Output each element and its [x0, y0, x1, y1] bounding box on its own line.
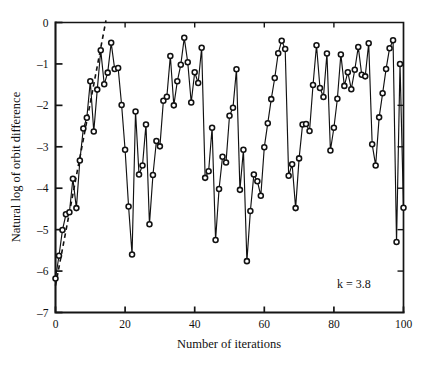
- data-point-marker: [147, 222, 152, 227]
- data-point-marker: [279, 38, 284, 43]
- x-tick-label: 40: [189, 318, 201, 330]
- x-tick-label: 100: [395, 318, 413, 330]
- x-tick-label: 0: [53, 318, 59, 330]
- data-point-marker: [84, 115, 89, 120]
- data-point-marker: [394, 240, 399, 245]
- data-point-marker: [352, 67, 357, 72]
- data-point-marker: [366, 41, 371, 46]
- data-point-marker: [304, 122, 309, 127]
- x-axis-title: Number of iterations: [177, 337, 281, 351]
- data-point-marker: [91, 129, 96, 134]
- data-point-marker: [331, 125, 336, 130]
- data-point-marker: [234, 67, 239, 72]
- data-point-marker: [206, 169, 211, 174]
- y-tick-label: –3: [36, 141, 49, 153]
- data-point-marker: [321, 95, 326, 100]
- data-point-marker: [363, 74, 368, 79]
- data-point-marker: [182, 35, 187, 40]
- data-point-marker: [77, 158, 82, 163]
- data-point-marker: [345, 70, 350, 75]
- y-tick-label: –6: [36, 265, 49, 277]
- data-point-marker: [311, 83, 316, 88]
- y-tick-label: –1: [36, 58, 49, 70]
- data-point-marker: [98, 48, 103, 53]
- data-point-marker: [199, 45, 204, 50]
- y-tick-label: 0: [43, 17, 49, 29]
- data-point-marker: [272, 76, 277, 81]
- data-point-marker: [102, 82, 107, 87]
- data-point-marker: [293, 206, 298, 211]
- data-point-marker: [349, 87, 354, 92]
- data-point-marker: [224, 160, 229, 165]
- data-point-marker: [171, 103, 176, 108]
- data-point-marker: [241, 147, 246, 152]
- k-value-annotation: k = 3.8: [337, 277, 371, 291]
- data-point-marker: [175, 79, 180, 84]
- data-point-marker: [342, 83, 347, 88]
- data-point-marker: [150, 172, 155, 177]
- chart-figure: 020406080100 0–1–2–3–4–5–6–7 Number of i…: [0, 0, 433, 377]
- data-point-marker: [314, 43, 319, 48]
- data-point-marker: [217, 187, 222, 192]
- data-point-marker: [255, 179, 260, 184]
- data-point-marker: [262, 145, 267, 150]
- data-point-marker: [60, 228, 65, 233]
- data-point-marker: [81, 126, 86, 131]
- data-point-marker: [286, 173, 291, 178]
- data-point-marker: [307, 129, 312, 134]
- data-point-marker: [109, 40, 114, 45]
- data-point-marker: [130, 252, 135, 257]
- data-point-marker: [185, 60, 190, 65]
- data-point-marker: [276, 51, 281, 56]
- data-point-marker: [119, 102, 124, 107]
- data-point-marker: [192, 70, 197, 75]
- data-point-marker: [203, 175, 208, 180]
- data-point-marker: [133, 109, 138, 114]
- data-point-marker: [380, 91, 385, 96]
- data-point-marker: [398, 61, 403, 66]
- data-point-marker: [178, 62, 183, 67]
- data-point-marker: [244, 259, 249, 264]
- data-point-marker: [384, 66, 389, 71]
- data-point-marker: [53, 276, 58, 281]
- data-point-marker: [105, 70, 110, 75]
- data-point-marker: [269, 97, 274, 102]
- data-point-marker: [283, 47, 288, 52]
- data-point-marker: [143, 122, 148, 127]
- data-point-marker: [210, 125, 215, 130]
- data-point-marker: [116, 66, 121, 71]
- data-point-marker: [189, 100, 194, 105]
- data-point-marker: [213, 238, 218, 243]
- data-point-marker: [126, 204, 131, 209]
- data-point-marker: [237, 187, 242, 192]
- data-point-marker: [297, 156, 302, 161]
- data-point-marker: [88, 79, 93, 84]
- data-point-marker: [154, 138, 159, 143]
- data-point-marker: [338, 52, 343, 57]
- data-point-marker: [196, 80, 201, 85]
- data-point-marker: [265, 121, 270, 126]
- data-point-marker: [74, 206, 79, 211]
- data-point-marker: [56, 253, 61, 258]
- data-point-marker: [373, 163, 378, 168]
- data-point-marker: [70, 176, 75, 181]
- x-tick-label: 80: [328, 318, 340, 330]
- y-axis-title: Natural log of orbit difference: [9, 91, 23, 242]
- data-point-marker: [401, 205, 406, 210]
- data-point-marker: [377, 115, 382, 120]
- data-point-marker: [137, 172, 142, 177]
- data-point-marker: [230, 105, 235, 110]
- x-tick-label: 20: [119, 318, 131, 330]
- data-point-marker: [248, 209, 253, 214]
- data-point-marker: [370, 142, 375, 147]
- y-tick-label: –5: [36, 224, 49, 236]
- y-tick-label: –4: [36, 182, 49, 194]
- data-point-marker: [123, 147, 128, 152]
- data-point-marker: [227, 113, 232, 118]
- data-point-marker: [251, 172, 256, 177]
- data-point-marker: [140, 163, 145, 168]
- data-point-marker: [324, 51, 329, 56]
- data-point-marker: [258, 193, 263, 198]
- data-point-marker: [356, 44, 361, 49]
- data-point-marker: [164, 94, 169, 99]
